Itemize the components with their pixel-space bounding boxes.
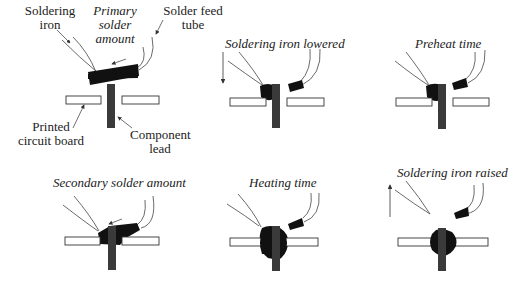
label-line: Solder feed [158, 4, 228, 18]
label-line: circuit board [16, 134, 86, 148]
label-line: lead [130, 142, 190, 156]
panel-raised [390, 181, 488, 271]
label-line: Primary [90, 4, 140, 18]
title-secondary-solder-amount: Secondary solder amount [53, 176, 186, 190]
label-line: Component [130, 128, 190, 142]
pcb-left-icon [66, 96, 101, 104]
solder-feed-tube-icon [300, 49, 320, 85]
solder-feed-tube-icon [465, 50, 485, 83]
title-soldering-iron-lowered: Soldering iron lowered [225, 37, 345, 51]
label-line: iron [20, 18, 80, 32]
solder-tip-icon [288, 80, 304, 92]
label-line: tube [158, 18, 228, 32]
panel-secondary [63, 196, 159, 270]
panel-lowered [223, 49, 324, 128]
label-printed-circuit-board: Printed circuit board [16, 120, 86, 148]
label-line: Printed [16, 120, 86, 134]
title-soldering-iron-raised: Soldering iron raised [397, 166, 508, 180]
title-preheat-time: Preheat time [415, 37, 481, 51]
label-component-lead: Component lead [130, 128, 190, 156]
title-heating-time: Heating time [249, 176, 317, 190]
arrow-secondary-solder [109, 219, 122, 224]
component-lead-icon [107, 84, 115, 128]
label-primary-solder-amount: Primary solder amount [90, 4, 140, 46]
panel-heating [227, 193, 319, 271]
primary-solder-blob-icon [88, 64, 139, 85]
label-line: solder [90, 18, 140, 32]
pcb-right-icon [122, 96, 159, 104]
label-solder-feed-tube: Solder feed tube [158, 4, 228, 32]
label-line: Soldering [20, 4, 80, 18]
label-soldering-iron: Soldering iron [20, 4, 80, 32]
label-line: amount [90, 32, 140, 46]
panel-preheat [395, 50, 489, 129]
soldering-process-diagram: Soldering iron Primary solder amount Sol… [0, 0, 510, 285]
arrow-primary-solder [112, 59, 126, 64]
